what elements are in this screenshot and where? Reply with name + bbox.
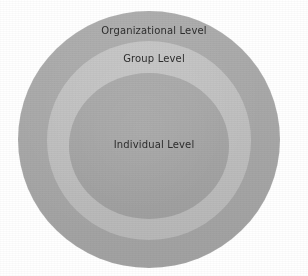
- concentric-levels-diagram: Organizational Level Group Level Individ…: [0, 0, 308, 276]
- individual-level-label: Individual Level: [0, 140, 308, 150]
- organizational-level-label: Organizational Level: [0, 26, 308, 36]
- group-level-label: Group Level: [0, 54, 308, 64]
